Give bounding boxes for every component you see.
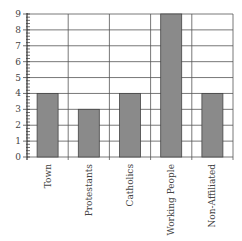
y-tick-label: 4 bbox=[15, 88, 21, 98]
y-tick-label: 5 bbox=[15, 73, 21, 83]
y-tick-label: 8 bbox=[15, 25, 21, 35]
x-tick-label: Protestants bbox=[84, 164, 94, 217]
x-axis-labels: TownProtestantsCatholicsWorking PeopleNo… bbox=[43, 164, 218, 236]
x-tick-label: Non-Affiliated bbox=[207, 164, 217, 228]
bar-non-affiliated bbox=[202, 93, 223, 157]
y-tick-label: 9 bbox=[15, 9, 21, 19]
y-tick-label: 0 bbox=[15, 152, 21, 162]
bar-town bbox=[37, 93, 58, 157]
y-axis: 0123456789 bbox=[15, 9, 30, 162]
y-tick-label: 2 bbox=[15, 120, 21, 130]
x-tick-label: Working People bbox=[166, 164, 176, 235]
bars bbox=[37, 14, 223, 157]
bar-protestants bbox=[78, 109, 99, 157]
bar-working-people bbox=[161, 14, 182, 157]
bar-chart: 0123456789 TownProtestantsCatholicsWorki… bbox=[0, 0, 242, 241]
y-tick-label: 1 bbox=[15, 136, 21, 146]
y-tick-label: 6 bbox=[15, 57, 21, 67]
bar-catholics bbox=[120, 93, 141, 157]
y-tick-label: 7 bbox=[15, 41, 21, 51]
x-tick-label: Town bbox=[43, 164, 53, 188]
y-tick-label: 3 bbox=[15, 104, 21, 114]
x-tick-label: Catholics bbox=[125, 164, 135, 207]
